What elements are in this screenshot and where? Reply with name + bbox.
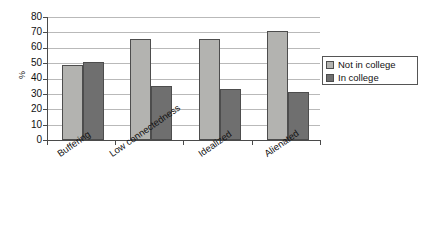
bar-buffering-not-in-college [62,65,83,140]
y-tick-label-20: 20 [20,104,42,114]
x-tickmark-4 [320,140,321,145]
x-tickmark-3 [252,140,253,145]
x-tickmark-0 [47,140,48,145]
y-tick-label-40: 40 [20,73,42,83]
plot-area [47,17,320,140]
legend-label-not-in-college: Not in college [338,60,396,70]
y-tickmark-80 [43,17,48,18]
y-tick-label-0: 0 [20,135,42,145]
y-tickmark-20 [43,109,48,110]
y-tick-label-50: 50 [20,58,42,68]
y-tick-label-70: 70 [20,27,42,37]
y-tick-label-80: 80 [20,12,42,22]
y-tickmark-10 [43,125,48,126]
y-tickmark-60 [43,48,48,49]
legend: Not in college In college [322,56,418,85]
legend-item-not-in-college: Not in college [326,59,414,71]
y-tick-label-30: 30 [20,89,42,99]
x-tickmark-2 [183,140,184,145]
legend-swatch-icon-not-in-college [326,61,334,69]
legend-label-in-college: In college [338,73,379,83]
gridline-80 [48,17,320,18]
bar-chart: % 80 70 60 50 40 30 20 10 0 [0,0,426,228]
y-tickmark-50 [43,63,48,64]
y-tick-label-10: 10 [20,120,42,130]
legend-item-in-college: In college [326,72,414,84]
bar-idealized-not-in-college [199,39,220,141]
y-tick-label-60: 60 [20,42,42,52]
legend-swatch-icon-in-college [326,74,334,82]
y-tickmark-30 [43,94,48,95]
y-tickmark-70 [43,32,48,33]
y-tickmark-40 [43,79,48,80]
bar-alienated-not-in-college [267,31,288,140]
